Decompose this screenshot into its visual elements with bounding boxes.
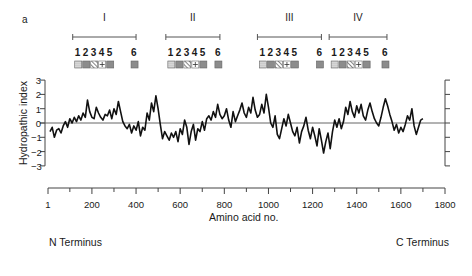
hydropathy-figure: a Hydropathic index Amino acid no. N Ter… [0, 0, 472, 276]
segment-box-solid-gray [291, 61, 298, 68]
segment-box-solid-gray [339, 61, 346, 68]
x-tick-label: 600 [172, 199, 188, 210]
segment-box-solid-gray [267, 61, 274, 68]
y-tick-label: −2 [31, 146, 41, 157]
x-tick-label: 800 [216, 199, 232, 210]
segment-number: 5 [291, 47, 297, 58]
x-tick-label: 1800 [434, 199, 455, 210]
segment-number: 5 [107, 47, 113, 58]
segment-box-solid-gray [363, 61, 370, 68]
segment-box-dotted [331, 61, 338, 68]
x-axis-label: Amino acid no. [209, 211, 278, 223]
segment-box-solid-gray [215, 61, 222, 68]
segment-box-hatched [184, 61, 191, 68]
segment-number: 3 [91, 47, 97, 58]
y-tick-label: 0 [31, 118, 41, 129]
segment-box-solid-gray [131, 61, 138, 68]
axes [40, 80, 450, 194]
n-terminus-label: N Terminus [49, 236, 102, 248]
segment-number: 3 [184, 47, 190, 58]
x-tick-label: 400 [128, 199, 144, 210]
y-tick-label: −1 [31, 132, 41, 143]
segment-box-solid-gray [316, 61, 323, 68]
segment-number: 2 [339, 47, 345, 58]
y-tick-label: 1 [31, 103, 41, 114]
segment-number: 6 [316, 47, 322, 58]
segment-number: 2 [176, 47, 182, 58]
segment-box-solid-gray [176, 61, 183, 68]
segment-number: 5 [200, 47, 206, 58]
x-tick-label: 200 [84, 199, 100, 210]
segment-box-dotted [168, 61, 175, 68]
segment-box-solid-gray [382, 61, 389, 68]
panel-label: a [22, 14, 28, 25]
segment-box-solid-gray [107, 61, 114, 68]
segment-number: 6 [382, 47, 388, 58]
x-tick-label: 1200 [302, 199, 323, 210]
y-tick-label: 3 [31, 75, 41, 86]
segment-number: 6 [215, 47, 221, 58]
segment-number: 6 [131, 47, 137, 58]
segment-number: 1 [259, 47, 265, 58]
domain-label: I [103, 12, 106, 23]
segment-number: 3 [347, 47, 353, 58]
segment-box-solid-gray [200, 61, 207, 68]
hydropathy-plot [0, 0, 472, 276]
y-tick-label: 2 [31, 89, 41, 100]
x-tick-label: 1600 [390, 199, 411, 210]
domain-bars [73, 34, 387, 40]
segment-number: 4 [283, 47, 289, 58]
domain-label: IV [353, 12, 362, 23]
y-tick-label: −3 [31, 160, 41, 171]
x-tick-label: 1000 [258, 199, 279, 210]
segment-number: 3 [275, 47, 281, 58]
segment-box-dotted [75, 61, 82, 68]
segment-box-hatched [347, 61, 354, 68]
segment-number: 4 [99, 47, 105, 58]
segment-number: 2 [267, 47, 273, 58]
segment-number: 5 [363, 47, 369, 58]
x-tick-label: 1400 [346, 199, 367, 210]
segment-box-hatched [91, 61, 98, 68]
segment-box-hatched [275, 61, 282, 68]
segment-box-solid-gray [83, 61, 90, 68]
segment-number: 1 [75, 47, 81, 58]
segment-number: 4 [192, 47, 198, 58]
segment-number: 1 [168, 47, 174, 58]
c-terminus-label: C Terminus [396, 236, 449, 248]
x-tick-label: 1 [45, 199, 50, 210]
domain-label: II [190, 12, 196, 23]
segment-legend [75, 61, 389, 68]
domain-label: III [285, 12, 293, 23]
hydropathy-trace [50, 94, 423, 153]
segment-number: 1 [331, 47, 337, 58]
y-axis-label: Hydropathic index [17, 78, 29, 168]
segment-box-dotted [259, 61, 266, 68]
segment-number: 2 [83, 47, 89, 58]
segment-number: 4 [355, 47, 361, 58]
